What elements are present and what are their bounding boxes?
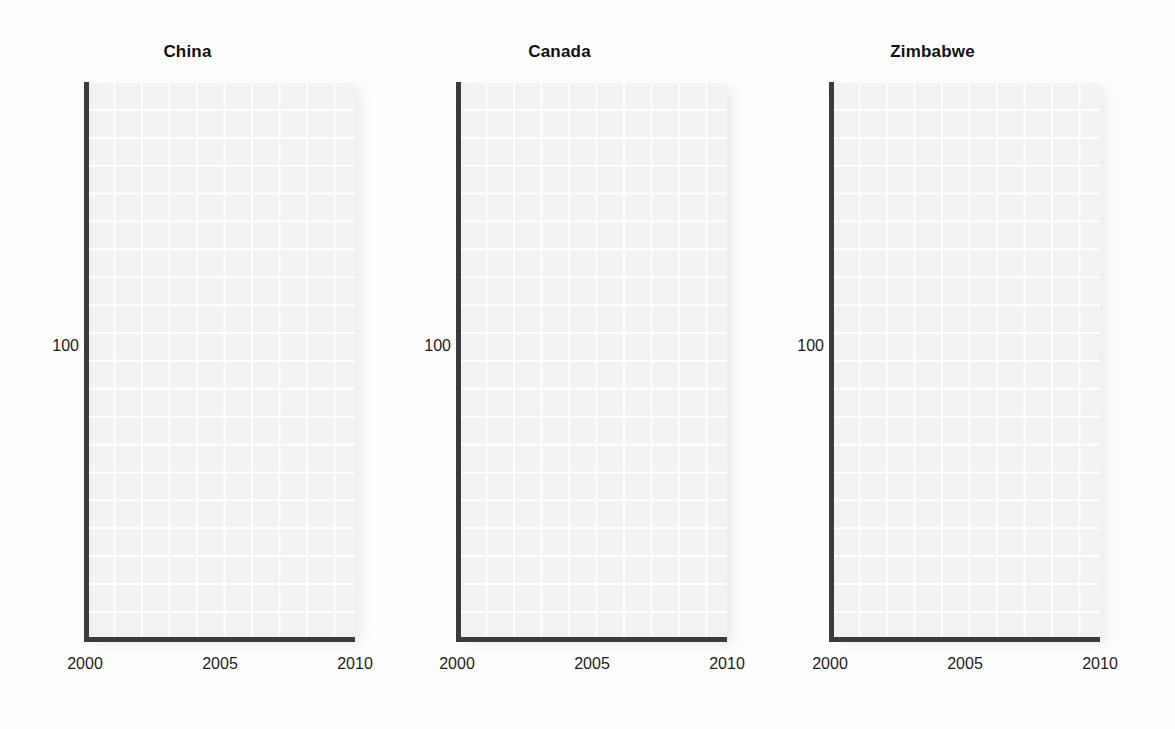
y-tick-label-zimbabwe-100: 100 [797,337,824,355]
y-tick-label-china-100: 100 [52,337,79,355]
x-axis-line-zimbabwe [829,637,1100,642]
x-tick-label-canada-2000: 2000 [425,655,489,673]
x-axis-line-china [84,637,355,642]
x-axis-line-canada [456,637,727,642]
y-axis-line-china [84,82,89,642]
panel-title-zimbabwe: Zimbabwe [745,42,1120,62]
x-tick-label-china-2005: 2005 [188,655,252,673]
chart-panel-zimbabwe: Zimbabwe 100 2000 2005 2010 [745,0,1120,729]
plot-area-china [88,82,355,640]
x-tick-label-zimbabwe-2010: 2010 [1068,655,1132,673]
x-tick-label-canada-2005: 2005 [560,655,624,673]
x-tick-label-zimbabwe-2005: 2005 [933,655,997,673]
plot-area-canada [460,82,727,640]
chart-panel-canada: Canada 100 2000 2005 2010 [372,0,747,729]
panel-title-canada: Canada [372,42,747,62]
y-axis-line-canada [456,82,461,642]
x-tick-label-zimbabwe-2000: 2000 [798,655,862,673]
plot-area-zimbabwe [833,82,1100,640]
chart-figure: China 100 2000 2005 2010 Canada 100 2000… [0,0,1175,729]
x-tick-label-china-2000: 2000 [53,655,117,673]
chart-panel-china: China 100 2000 2005 2010 [0,0,375,729]
panel-title-china: China [0,42,375,62]
y-tick-label-canada-100: 100 [424,337,451,355]
y-axis-line-zimbabwe [829,82,834,642]
